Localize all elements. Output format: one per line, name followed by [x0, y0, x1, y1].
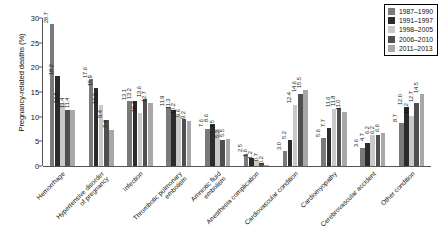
bar: 3.0 — [283, 151, 288, 166]
x-axis-line — [43, 166, 431, 167]
bar-group: 17.615.912.39.47.4 — [82, 18, 121, 166]
bar: 8.7 — [399, 123, 404, 166]
y-axis-tick-label: 30 — [21, 14, 39, 23]
pregnancy-related-deaths-bar-chart: Pregnancy-related deaths (%) 05101520253… — [0, 0, 442, 239]
bar-value-label: 5.5 — [219, 130, 225, 138]
bar: 5.6 — [321, 138, 326, 166]
y-axis-tick-labels: 051015202530 — [20, 18, 42, 166]
legend-color-swatch — [388, 17, 395, 24]
bar: 6.2 — [376, 135, 381, 166]
bar-value-label: 18.2 — [49, 64, 55, 75]
legend-item[interactable]: 1991–1997 — [388, 16, 433, 25]
legend-item[interactable]: 1998–2005 — [388, 25, 433, 34]
legend-color-swatch — [388, 26, 395, 33]
bar-value-label: 7.7 — [320, 119, 326, 127]
bar: 7.6 — [205, 129, 210, 166]
bar: 14.5 — [420, 94, 425, 166]
y-axis-tick-label: 20 — [21, 63, 39, 72]
bar-value-label: 28.7 — [43, 12, 49, 23]
bar: 9.6 — [182, 119, 187, 166]
legend-item-label: 1998–2005 — [399, 26, 433, 33]
bar: 12.5 — [60, 104, 65, 166]
y-axis-tick-label: 25 — [21, 38, 39, 47]
bar: 4.7 — [365, 143, 370, 166]
bar-value-label: 10.2 — [403, 103, 409, 114]
bar: 6.2 — [370, 135, 375, 166]
bar: 18.2 — [55, 76, 60, 166]
bar-group: 11.911.310.29.69.2 — [159, 18, 198, 166]
bar: 15.5 — [303, 90, 308, 166]
bar: 5.2 — [288, 140, 293, 166]
legend-item-label: 2011–2013 — [399, 45, 433, 52]
bar: 5.3 — [220, 140, 225, 166]
bar-group: 2.51.61.20.70.2 — [237, 18, 276, 166]
bar: 11.9 — [166, 107, 171, 166]
legend-item[interactable]: 1987–1990 — [388, 7, 433, 16]
bar: 14.6 — [298, 94, 303, 166]
y-axis-tick-label: 5 — [21, 137, 39, 146]
bar: 11.6 — [332, 109, 337, 166]
bar-group: 13.113.210.713.612.7 — [121, 18, 160, 166]
bar-value-label: 8.7 — [393, 114, 399, 122]
bar-value-label: 10.7 — [131, 101, 137, 112]
legend-item-label: 1987–1990 — [399, 8, 433, 15]
bar: 6.6 — [381, 133, 386, 166]
bar-value-label: 9.2 — [180, 111, 186, 119]
bar: 7.7 — [327, 128, 332, 166]
bar-value-label: 15.9 — [87, 75, 93, 86]
legend-color-swatch — [388, 45, 395, 52]
bar: 3.6 — [360, 148, 365, 166]
y-axis-tick-label: 15 — [21, 88, 39, 97]
legend-color-swatch — [388, 8, 395, 15]
bar-group: 28.718.212.511.411.4 — [43, 18, 82, 166]
bar-value-label: 12.7 — [142, 91, 148, 102]
bar-value-label: 13.2 — [126, 89, 132, 100]
bar-value-label: 12.4 — [287, 92, 293, 103]
bar-value-label: 5.6 — [315, 129, 321, 137]
bar-value-label: 0.2 — [258, 156, 264, 164]
bar-value-label: 9.4 — [98, 110, 104, 118]
bar-value-label: 12.3 — [93, 93, 99, 104]
bar-value-label: 11.4 — [64, 98, 70, 108]
bar: 12.0 — [404, 107, 409, 166]
bar: 10.2 — [176, 116, 181, 166]
bar: 11.4 — [70, 110, 75, 166]
bar: 11.0 — [342, 112, 347, 166]
legend: 1987–19901991–19971998–20052006–20102011… — [384, 4, 438, 56]
bar: 11.3 — [171, 110, 176, 166]
bar-value-label: 6.6 — [374, 124, 380, 132]
legend-item-label: 1991–1997 — [399, 17, 433, 24]
bar: 12.4 — [293, 105, 298, 166]
bar-group: 3.05.212.414.615.5 — [276, 18, 315, 166]
bar-group: 5.67.711.611.811.0 — [315, 18, 354, 166]
bar: 5.5 — [226, 139, 231, 166]
bar: 10.2 — [409, 116, 414, 166]
bar-value-label: 7.4 — [103, 120, 109, 128]
y-axis-tick-label: 0 — [21, 162, 39, 171]
bar: 12.7 — [148, 103, 153, 166]
legend-item-label: 2006–2010 — [399, 36, 433, 43]
bar-value-label: 11.0 — [336, 100, 342, 110]
bar: 11.8 — [337, 108, 342, 166]
bar-value-label: 4.7 — [359, 134, 365, 142]
bar-value-label: 7.5 — [209, 120, 215, 128]
bar: 13.6 — [143, 99, 148, 166]
y-axis-tick-label: 10 — [21, 112, 39, 121]
bar: 12.7 — [414, 103, 419, 166]
plot-area: 28.718.212.511.411.417.615.912.39.47.413… — [43, 18, 431, 166]
bar-group: 7.68.67.55.35.5 — [198, 18, 237, 166]
bar-value-label: 3.0 — [276, 142, 282, 150]
bar-value-label: 15.5 — [297, 77, 303, 88]
bar-value-label: 14.5 — [413, 82, 419, 93]
legend-item[interactable]: 2006–2010 — [388, 35, 433, 44]
legend-color-swatch — [388, 36, 395, 43]
bar: 0.2 — [264, 165, 269, 166]
bar: 9.2 — [187, 121, 192, 166]
bar: 11.4 — [65, 110, 70, 166]
bar: 7.4 — [109, 130, 114, 167]
legend-item[interactable]: 2011–2013 — [388, 44, 433, 53]
bar: 10.7 — [138, 113, 143, 166]
bar-value-label: 5.2 — [281, 131, 287, 139]
